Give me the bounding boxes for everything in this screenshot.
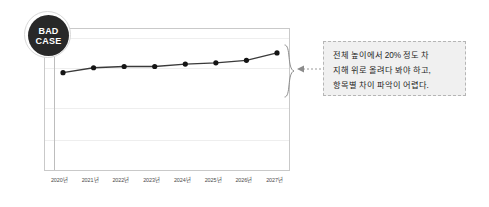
x-tick-2023: 2023년 (136, 174, 167, 186)
x-tick-2024: 2024년 (167, 174, 198, 186)
bad-case-badge-line-1: BAD (38, 26, 58, 36)
data-point-2024년 (183, 61, 188, 66)
data-point-2026년 (244, 58, 249, 63)
callout-box: 전체 높이에서 20% 정도 차 지해 위로 올려다 봐야 하고, 항목별 차이… (323, 41, 466, 96)
x-tick-2025: 2025년 (198, 174, 229, 186)
series-markers (60, 50, 279, 75)
line-series (45, 29, 291, 172)
x-tick-2021: 2021년 (75, 174, 106, 186)
data-point-2021년 (91, 65, 96, 70)
data-point-2023년 (152, 64, 157, 69)
x-axis-labels: 2020년 2021년 2022년 2023년 2024년 2025년 2026… (44, 174, 290, 186)
dotted-arrow-connector-icon (296, 62, 326, 76)
x-tick-2022: 2022년 (106, 174, 137, 186)
x-tick-2026: 2026년 (229, 174, 260, 186)
data-point-2025년 (213, 60, 218, 65)
bad-case-badge: BAD CASE (24, 11, 71, 58)
callout-line-2: 지해 위로 올려다 봐야 하고, (333, 63, 456, 78)
bad-case-badge-inner: BAD CASE (28, 15, 69, 56)
data-point-2022년 (122, 64, 127, 69)
data-point-2020년 (60, 70, 65, 75)
x-tick-2020: 2020년 (44, 174, 75, 186)
callout-line-1: 전체 높이에서 20% 정도 차 (333, 48, 456, 63)
x-tick-2027: 2027년 (259, 174, 290, 186)
callout-line-3: 항목별 차이 파악이 어렵다. (333, 78, 456, 93)
bad-case-badge-line-2: CASE (36, 36, 62, 46)
plot-area (45, 29, 289, 170)
chart-panel (44, 28, 290, 171)
data-point-2027년 (274, 50, 279, 55)
bad-case-chart-figure: BAD CASE 2020년 2021년 2022년 2023년 2024년 2… (0, 0, 489, 207)
